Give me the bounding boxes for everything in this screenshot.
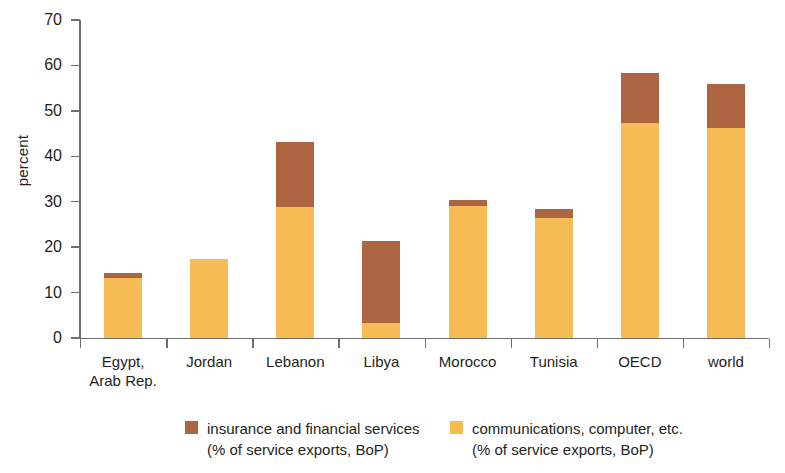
- x-axis-category-label: OECD: [597, 352, 683, 371]
- bar-group: [683, 20, 769, 338]
- bar-stack[interactable]: [190, 259, 228, 338]
- y-axis-tick: [71, 292, 80, 293]
- x-axis-category-label: world: [683, 352, 769, 371]
- x-axis-category-label: Egypt,Arab Rep.: [80, 352, 166, 390]
- x-axis-category-label: Morocco: [425, 352, 511, 371]
- bar-segment-communications-computer[interactable]: [535, 218, 573, 338]
- y-axis-tick-label: 50: [24, 103, 62, 119]
- category-label-line1: Morocco: [425, 352, 511, 371]
- chart-legend: insurance and financial services(% of se…: [0, 418, 785, 473]
- x-axis-tick: [683, 339, 684, 348]
- bar-stack[interactable]: [104, 273, 142, 338]
- bar-group: [425, 20, 511, 338]
- x-axis-category-label: Libya: [338, 352, 424, 371]
- x-axis-tick: [166, 339, 167, 348]
- legend-label-primary: communications, computer, etc.: [472, 420, 683, 437]
- bar-segment-communications-computer[interactable]: [190, 259, 228, 338]
- legend-swatch-icon: [450, 421, 463, 434]
- plot-area: [80, 20, 769, 338]
- category-label-line1: Libya: [338, 352, 424, 371]
- y-axis-tick: [71, 19, 80, 20]
- y-axis-tick: [71, 156, 80, 157]
- bar-segment-insurance-financial[interactable]: [621, 73, 659, 123]
- category-label-line1: Tunisia: [511, 352, 597, 371]
- bar-segment-insurance-financial[interactable]: [535, 209, 573, 218]
- legend-item[interactable]: communications, computer, etc.(% of serv…: [450, 418, 683, 460]
- bar-stack[interactable]: [276, 142, 314, 338]
- x-axis-category-label: Jordan: [166, 352, 252, 371]
- bar-segment-communications-computer[interactable]: [362, 323, 400, 338]
- x-axis-category-label: Tunisia: [511, 352, 597, 371]
- y-axis-tick: [71, 110, 80, 111]
- bar-group: [597, 20, 683, 338]
- bar-group: [252, 20, 338, 338]
- legend-label-sublabel: (% of service exports, BoP): [472, 439, 683, 460]
- bar-segment-communications-computer[interactable]: [449, 206, 487, 338]
- x-axis-tick: [597, 339, 598, 348]
- legend-label-sublabel: (% of service exports, BoP): [207, 439, 420, 460]
- y-axis-tick-label: 70: [24, 12, 62, 28]
- bar-group: [80, 20, 166, 338]
- bar-segment-insurance-financial[interactable]: [362, 241, 400, 323]
- bar-stack[interactable]: [707, 84, 745, 338]
- y-axis-tick: [71, 201, 80, 202]
- category-label-line1: Lebanon: [252, 352, 338, 371]
- bar-stack[interactable]: [449, 200, 487, 338]
- category-label-line1: world: [683, 352, 769, 371]
- category-label-line2: Arab Rep.: [80, 371, 166, 390]
- bar-segment-communications-computer[interactable]: [707, 128, 745, 338]
- x-axis-tick: [80, 339, 81, 348]
- category-label-line1: Jordan: [166, 352, 252, 371]
- x-axis-category-label: Lebanon: [252, 352, 338, 371]
- y-axis-tick-label: 20: [24, 239, 62, 255]
- y-axis-tick-label: 60: [24, 57, 62, 73]
- legend-swatch-icon: [185, 421, 198, 434]
- category-label-line1: Egypt,: [80, 352, 166, 371]
- bar-stack[interactable]: [535, 209, 573, 338]
- bar-group: [338, 20, 424, 338]
- bar-segment-communications-computer[interactable]: [621, 123, 659, 338]
- y-axis-tick-label: 10: [24, 285, 62, 301]
- y-axis-tick-label: 30: [24, 194, 62, 210]
- bar-group: [166, 20, 252, 338]
- bar-segment-insurance-financial[interactable]: [276, 142, 314, 207]
- y-axis-tick: [71, 337, 80, 338]
- bar-segment-insurance-financial[interactable]: [707, 84, 745, 128]
- y-axis-tick: [71, 65, 80, 66]
- y-axis-tick-label: 40: [24, 148, 62, 164]
- x-axis-tick: [425, 339, 426, 348]
- category-label-line1: OECD: [597, 352, 683, 371]
- legend-label: insurance and financial services(% of se…: [207, 418, 420, 460]
- x-axis-tick: [769, 339, 770, 348]
- legend-item[interactable]: insurance and financial services(% of se…: [185, 418, 420, 460]
- legend-label-primary: insurance and financial services: [207, 420, 420, 437]
- bar-segment-communications-computer[interactable]: [276, 207, 314, 338]
- legend-label: communications, computer, etc.(% of serv…: [472, 418, 683, 460]
- bar-stack[interactable]: [621, 73, 659, 338]
- bar-group: [511, 20, 597, 338]
- x-axis-tick: [338, 339, 339, 348]
- stacked-bar-chart: percent 706050403020100 Egypt,Arab Rep.J…: [0, 0, 785, 473]
- bar-stack[interactable]: [362, 241, 400, 338]
- x-axis-tick: [252, 339, 253, 348]
- y-axis-tick: [71, 246, 80, 247]
- x-axis-tick: [511, 339, 512, 348]
- y-axis-tick-label: 0: [24, 330, 62, 346]
- bar-segment-communications-computer[interactable]: [104, 278, 142, 338]
